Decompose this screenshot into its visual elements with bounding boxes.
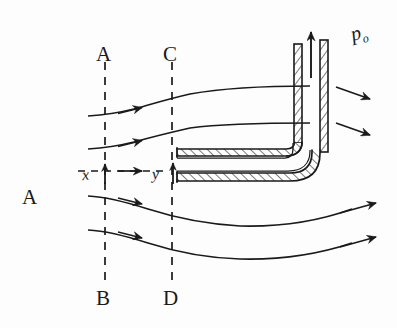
control-surface-label-C: C: [163, 44, 177, 65]
canvas-background: [0, 0, 397, 328]
station-label-y: y: [151, 166, 159, 182]
control-surface-label-B: B: [96, 288, 110, 309]
tube-wall-hatched: [294, 44, 302, 143]
tube-wall-inner-riser: [294, 44, 302, 143]
control-surface-label-D: D: [163, 288, 178, 309]
tube-wall-outer-riser: [320, 40, 328, 152]
station-label-x: x: [81, 167, 90, 184]
figure-container: A C B D A x y po: [0, 0, 397, 328]
tube-wall-hatched: [320, 40, 328, 152]
figure-label: A: [22, 187, 37, 208]
diagram-canvas: [0, 0, 397, 328]
control-surface-label-A: A: [96, 44, 111, 65]
